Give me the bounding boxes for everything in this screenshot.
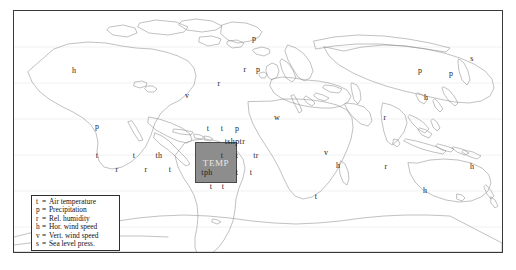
station-marker: h <box>423 187 427 195</box>
station-marker: p <box>256 66 260 74</box>
legend-description: Sea level press. <box>49 240 116 248</box>
station-marker: p <box>95 123 99 131</box>
legend-equals: = <box>42 240 49 248</box>
station-marker: t <box>210 183 212 191</box>
station-marker: th <box>155 152 162 160</box>
station-marker: t <box>207 125 209 133</box>
station-marker: v <box>324 149 328 157</box>
station-marker: tshptr <box>225 138 246 146</box>
station-marker: r <box>145 166 148 174</box>
station-marker: t <box>250 169 252 177</box>
map-frame: TEMP hpttrrthtvttptshptrtttrtphttttprrpw… <box>13 10 503 253</box>
station-marker: r <box>218 80 221 88</box>
station-marker: r <box>385 163 388 171</box>
station-marker: t <box>315 193 317 201</box>
station-marker: t <box>236 152 238 160</box>
station-marker: r <box>244 66 247 74</box>
station-marker: t <box>222 183 224 191</box>
legend-box: t=Air temperaturep=Precipitationr=Rel. h… <box>31 195 120 251</box>
station-marker: r <box>116 166 119 174</box>
station-marker: h <box>470 163 474 171</box>
station-marker: tph <box>201 169 212 177</box>
station-marker: h <box>72 67 76 75</box>
station-marker: p <box>449 70 453 78</box>
legend-row: s=Sea level press. <box>36 240 116 248</box>
station-marker: t <box>221 152 223 160</box>
station-marker: t <box>133 152 135 160</box>
station-marker: t <box>169 166 171 174</box>
station-marker: p <box>235 125 239 133</box>
station-marker: p <box>252 35 256 43</box>
station-marker: w <box>274 114 280 122</box>
station-marker: h <box>424 94 428 102</box>
world-map-figure: TEMP hpttrrthtvttptshptrtttrtphttttprrpw… <box>0 0 516 270</box>
station-marker: p <box>418 67 422 75</box>
station-marker: r <box>384 114 387 122</box>
station-marker: v <box>185 92 189 100</box>
station-marker: t <box>236 169 238 177</box>
station-marker: s <box>470 55 473 63</box>
station-marker: h <box>336 162 340 170</box>
station-marker: tr <box>253 152 259 160</box>
station-marker: t <box>221 125 223 133</box>
station-marker: t <box>96 152 98 160</box>
